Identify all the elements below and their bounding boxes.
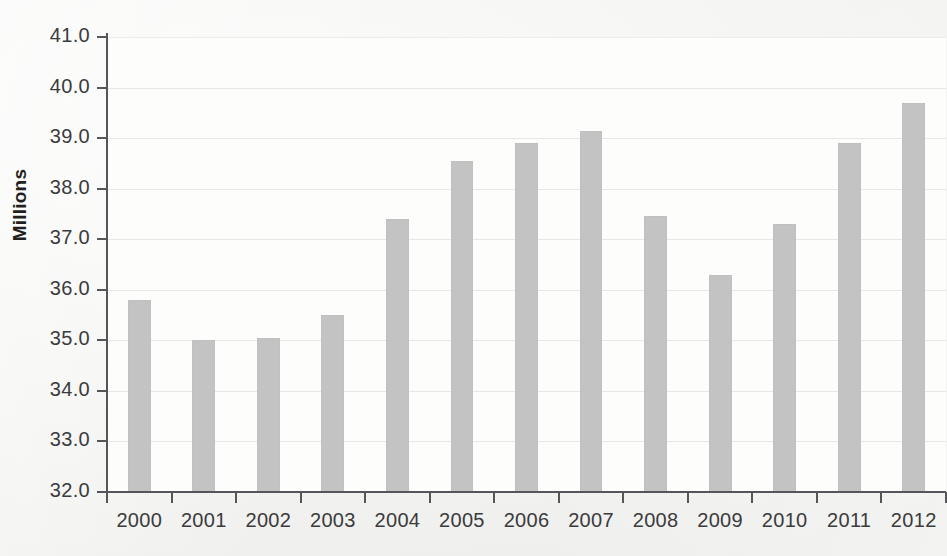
- y-axis-tick-label-wrap: 36.0: [28, 277, 90, 301]
- x-axis-tick: [687, 492, 689, 503]
- y-axis-tick-label-wrap: 34.0: [28, 378, 90, 402]
- y-axis-tick: [97, 390, 107, 392]
- x-axis-tick: [880, 492, 882, 503]
- x-axis-tick-label-2012: 2012: [881, 509, 946, 532]
- x-axis-tick: [622, 492, 624, 503]
- x-axis-tick: [235, 492, 237, 503]
- x-axis-tick: [816, 492, 818, 503]
- bar-2010: [773, 224, 796, 492]
- x-axis-tick: [558, 492, 560, 503]
- bar-2006: [515, 143, 538, 492]
- x-axis-tick-label-2006: 2006: [494, 509, 559, 532]
- y-axis-tick: [97, 440, 107, 442]
- y-axis-tick: [97, 339, 107, 341]
- y-axis-tick-label: 36.0: [28, 277, 90, 300]
- y-axis-tick-label: 34.0: [28, 378, 90, 401]
- x-axis-tick: [429, 492, 431, 503]
- gridline: [107, 138, 946, 139]
- y-axis-line: [106, 33, 108, 496]
- y-axis-tick-label-wrap: 33.0: [28, 428, 90, 452]
- bar-2002: [257, 338, 280, 492]
- y-axis-tick-label-wrap: 40.0: [28, 75, 90, 99]
- x-axis-tick: [300, 492, 302, 503]
- y-axis-tick: [97, 188, 107, 190]
- gridline: [107, 88, 946, 89]
- x-axis-tick-label-2008: 2008: [623, 509, 688, 532]
- y-axis-tick-label-wrap: 39.0: [28, 125, 90, 149]
- y-axis-tick-label: 33.0: [28, 428, 90, 451]
- y-axis-tick-label: 40.0: [28, 75, 90, 98]
- bar-2012: [902, 103, 925, 492]
- y-axis-tick-label: 35.0: [28, 327, 90, 350]
- bar-2009: [709, 275, 732, 492]
- y-axis-tick: [97, 289, 107, 291]
- x-axis-tick: [493, 492, 495, 503]
- x-axis-tick: [364, 492, 366, 503]
- x-axis-tick: [106, 492, 108, 503]
- x-axis-tick-label-2004: 2004: [365, 509, 430, 532]
- y-axis-tick-label-wrap: 41.0: [28, 24, 90, 48]
- x-axis-tick-label-2011: 2011: [817, 509, 882, 532]
- bar-2007: [580, 131, 603, 492]
- x-axis-tick-label-2003: 2003: [301, 509, 366, 532]
- bar-2011: [838, 143, 861, 492]
- y-axis-tick: [97, 238, 107, 240]
- x-axis-tick: [171, 492, 173, 503]
- y-axis-tick-label: 41.0: [28, 24, 90, 47]
- y-axis-tick-label: 37.0: [28, 226, 90, 249]
- x-axis-tick-label-2005: 2005: [430, 509, 495, 532]
- x-axis-tick-label-2007: 2007: [559, 509, 624, 532]
- y-axis-tick: [97, 87, 107, 89]
- x-axis-tick-label-2009: 2009: [688, 509, 753, 532]
- x-axis-tick-label-2001: 2001: [172, 509, 237, 532]
- y-axis-tick: [97, 137, 107, 139]
- y-axis-tick-label-wrap: 35.0: [28, 327, 90, 351]
- gridline: [107, 37, 946, 38]
- x-axis-tick-label-2000: 2000: [107, 509, 172, 532]
- y-axis-tick-label: 32.0: [28, 479, 90, 502]
- x-axis-tick-label-2010: 2010: [752, 509, 817, 532]
- bar-2005: [451, 161, 474, 492]
- bar-2008: [644, 216, 667, 492]
- y-axis-tick-label-wrap: 38.0: [28, 176, 90, 200]
- y-axis-tick: [97, 36, 107, 38]
- x-axis-line: [101, 491, 946, 493]
- bar-2004: [386, 219, 409, 492]
- bar-2001: [192, 340, 215, 492]
- y-axis-tick-label-wrap: 32.0: [28, 479, 90, 503]
- y-axis-tick-label-wrap: 37.0: [28, 226, 90, 250]
- plot-area: [107, 37, 946, 492]
- x-axis-tick: [751, 492, 753, 503]
- bar-2000: [128, 300, 151, 492]
- y-axis-tick-label: 39.0: [28, 125, 90, 148]
- x-axis-tick-label-2002: 2002: [236, 509, 301, 532]
- bar-2003: [321, 315, 344, 492]
- y-axis-tick-label: 38.0: [28, 176, 90, 199]
